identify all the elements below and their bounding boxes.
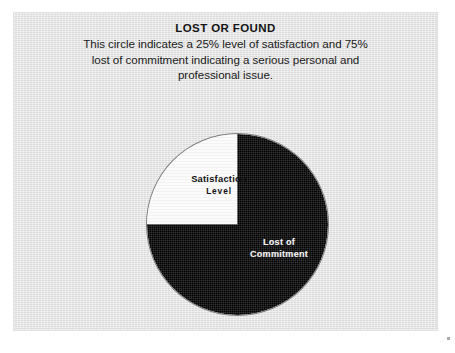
scan-artifact-speck [447,337,450,340]
pie-label-lost-line-2: Commitment [229,249,329,261]
slide-text-block: LOST OR FOUND This circle indicates a 25… [14,21,437,83]
pie-label-lost-line-1: Lost of [229,237,329,249]
pie-chart: Satisfaction Level Lost of Commitment [147,134,328,315]
scanned-page: LOST OR FOUND This circle indicates a 25… [0,0,455,353]
slide-body-line-1: This circle indicates a 25% level of sat… [14,36,437,52]
pie-label-satisfaction-line-1: Satisfaction [173,174,265,186]
slide-body-line-2: lost of commitment indicating a serious … [14,52,437,68]
pie-label-satisfaction-level: Satisfaction Level [173,174,265,197]
page-title: LOST OR FOUND [14,21,437,35]
slide-canvas: LOST OR FOUND This circle indicates a 25… [14,13,437,330]
pie-label-satisfaction-line-2: Level [173,186,265,198]
slide-body-line-3: professional issue. [14,67,437,83]
pie-disc [147,134,328,315]
pie-radius-line-horizontal [147,224,238,225]
pie-label-lost-of-commitment: Lost of Commitment [229,237,329,260]
